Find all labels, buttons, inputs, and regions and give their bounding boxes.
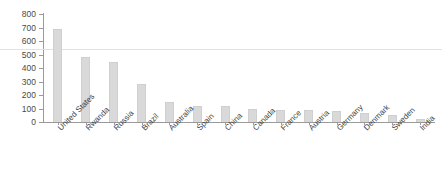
- y-axis-tick: [39, 55, 43, 56]
- bar-slot: [295, 14, 323, 122]
- bar-slot: [211, 14, 239, 122]
- bar[interactable]: [81, 57, 90, 122]
- y-axis-tick-label: 200: [2, 91, 36, 99]
- bar-slot: [44, 14, 72, 122]
- y-axis-tick-label: 300: [2, 78, 36, 86]
- bar[interactable]: [109, 62, 118, 122]
- y-axis-tick: [39, 41, 43, 42]
- y-axis-tick: [39, 95, 43, 96]
- y-axis-tick-label: 600: [2, 37, 36, 45]
- y-axis-tick-label: 400: [2, 64, 36, 72]
- y-axis-tick-label: 0: [2, 118, 36, 126]
- y-axis-tick: [39, 14, 43, 15]
- y-axis-tick-label: 100: [2, 105, 36, 113]
- y-axis-tick: [39, 82, 43, 83]
- y-axis-tick: [39, 122, 43, 123]
- y-axis-tick-label: 500: [2, 51, 36, 59]
- bar[interactable]: [53, 29, 62, 122]
- y-axis-tick: [39, 109, 43, 110]
- y-axis-tick: [39, 28, 43, 29]
- bar-slot: [128, 14, 156, 122]
- bar-slot: [239, 14, 267, 122]
- y-axis-tick: [39, 68, 43, 69]
- bar[interactable]: [137, 84, 146, 122]
- bar-slot: [155, 14, 183, 122]
- bar-slot: [323, 14, 351, 122]
- y-axis-tick-label: 800: [2, 10, 36, 18]
- y-axis-tick-label: 700: [2, 24, 36, 32]
- bar-chart: 0100200300400500600700800 United StatesR…: [0, 0, 442, 188]
